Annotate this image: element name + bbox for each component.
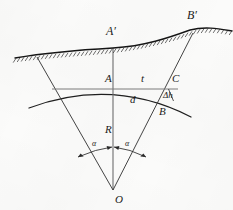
- geodesy-figure: A′ B′ A t C Δh d B R α α O: [0, 0, 233, 210]
- terrain-profile-line: [15, 28, 232, 58]
- ray-O-to-left-terrain: [37, 57, 113, 190]
- label-a-prime: A′: [106, 25, 116, 37]
- label-b: B: [159, 106, 166, 117]
- label-o: O: [115, 194, 123, 205]
- figure-canvas: [0, 0, 233, 210]
- label-r: R: [105, 124, 112, 135]
- label-d: d: [130, 94, 136, 105]
- label-c: C: [172, 73, 179, 84]
- angle-alpha-right-marker: [114, 146, 146, 157]
- label-a: A: [105, 73, 112, 84]
- label-b-prime: B′: [187, 9, 197, 21]
- label-delta-h: Δh: [163, 91, 173, 100]
- label-alpha-right: α: [125, 140, 129, 148]
- label-t: t: [141, 73, 144, 84]
- label-alpha-left: α: [92, 140, 96, 148]
- terrain-hatching: [13, 28, 232, 62]
